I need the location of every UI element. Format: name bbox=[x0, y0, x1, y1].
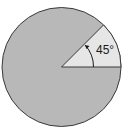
circle-diagram: 45° bbox=[0, 0, 124, 133]
angle-label: 45° bbox=[96, 43, 114, 57]
